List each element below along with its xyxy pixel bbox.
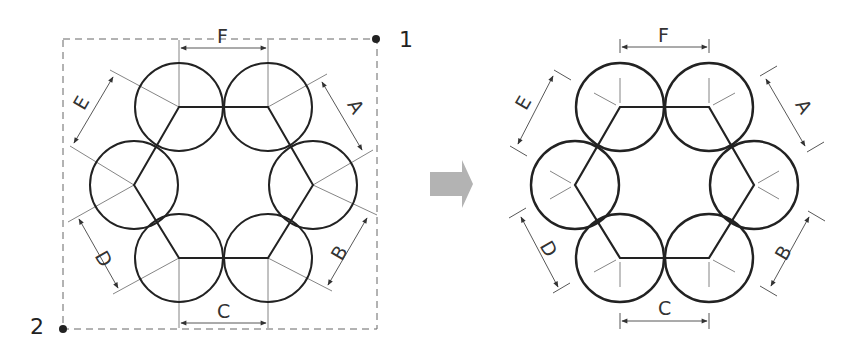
diagram-canvas: 1 2 — [0, 0, 855, 360]
corner-point-2 — [59, 325, 67, 333]
hexagon — [134, 107, 313, 258]
dimension-lines — [509, 39, 825, 329]
corner-point-1 — [372, 35, 380, 43]
dim-label-D: D — [91, 247, 117, 271]
dim-label-C: C — [217, 300, 230, 322]
dim-label-E: E — [68, 92, 93, 113]
corner-label-2: 2 — [30, 314, 44, 339]
circles — [531, 63, 798, 302]
left-panel: 1 2 — [30, 25, 413, 339]
dim-label-A: A — [791, 95, 817, 117]
dim-label-B: B — [770, 241, 796, 263]
corner-label-1: 1 — [399, 27, 413, 52]
dim-label-B: B — [326, 241, 352, 263]
dimension-lines — [74, 48, 367, 323]
transform-arrow-icon — [430, 160, 473, 208]
dim-label-A: A — [343, 95, 369, 117]
dim-label-C: C — [658, 297, 671, 319]
hexagon — [575, 107, 754, 258]
dim-label-D: D — [536, 237, 562, 261]
right-panel: F C E A D B — [509, 24, 825, 329]
extension-lines — [68, 40, 377, 328]
dim-label-E: E — [510, 92, 535, 113]
dim-label-F: F — [217, 25, 228, 47]
dim-label-F: F — [658, 24, 669, 46]
